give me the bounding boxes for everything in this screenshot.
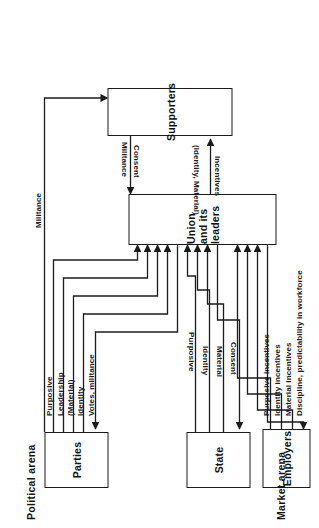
edge-label-supporters-consent: Consent xyxy=(131,145,140,178)
edge-label-parties-purposive: Purposive xyxy=(44,376,53,416)
edge-label-union-incentives: Incentives xyxy=(212,156,221,196)
edge-label-state-consent: Consent xyxy=(228,342,237,375)
node-parties-label: Parties xyxy=(70,442,82,478)
edge-label-parties-votes-militance: Votes, militance xyxy=(86,354,95,416)
node-supporters[interactable]: Supporters xyxy=(107,88,232,136)
edge-label-parties-leadership: Leadership xyxy=(55,372,64,416)
edge-label-parties-material: (Material) xyxy=(65,379,74,416)
edge-label-employers-identity: Identity incentives xyxy=(272,344,281,416)
node-union-label: Union and its leaders xyxy=(184,195,220,244)
edge-label-parties-militance: Militance xyxy=(33,193,42,228)
rotated-diagram-canvas: Political arena Market arena xyxy=(0,0,319,528)
edge-label-parties-identity: Identity xyxy=(75,387,84,416)
node-parties[interactable]: Parties xyxy=(44,432,108,488)
edge-label-state-identity: Identity xyxy=(200,346,209,375)
edge-label-union-incentives-kinds: (Identity, Material) xyxy=(191,145,200,215)
edge-label-employers-material: Material incentives xyxy=(283,343,292,417)
edge-union-votes-militance xyxy=(95,245,177,429)
edge-label-employers-purposive: Purposive incentives xyxy=(261,334,270,416)
edge-label-state-purposive: Purposive xyxy=(186,332,195,372)
node-union[interactable]: Union and its leaders xyxy=(128,194,276,245)
edge-label-state-material: Material xyxy=(214,346,223,377)
node-supporters-label: Supporters xyxy=(164,83,176,141)
edge-label-employers-discipline: Discipline, predictability in workforce xyxy=(294,270,303,416)
arena-label-political: Political arena xyxy=(24,444,36,520)
node-state[interactable]: State xyxy=(186,432,250,488)
edge-union-consent-state xyxy=(217,245,239,429)
edge-label-supporters-militance: Militance xyxy=(119,142,128,177)
diagram-canvas: Political arena Market arena xyxy=(0,0,319,528)
node-state-label: State xyxy=(212,447,224,474)
arena-label-market: Market arena xyxy=(274,452,286,520)
